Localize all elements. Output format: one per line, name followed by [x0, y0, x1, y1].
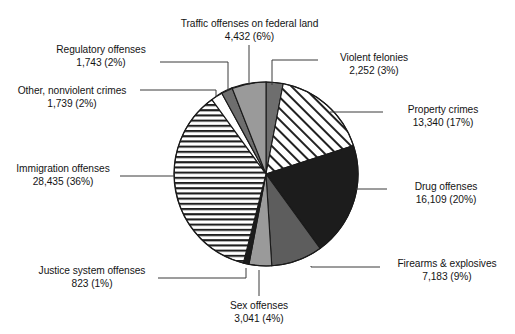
label-regulatory-title: Regulatory offenses [45, 44, 157, 57]
label-immigration-value: 28,435 (36%) [8, 176, 118, 189]
label-regulatory-offenses: Regulatory offenses 1,743 (2%) [45, 44, 157, 69]
label-drug-title: Drug offenses [391, 181, 501, 194]
label-firearms-value: 7,183 (9%) [384, 271, 510, 284]
label-violent-felonies: Violent felonies 2,252 (3%) [322, 52, 426, 77]
label-other-value: 1,739 (2%) [8, 98, 136, 111]
label-firearms-title: Firearms & explosives [384, 258, 510, 271]
label-traffic-value: 4,432 (6%) [152, 31, 347, 44]
leader-line-justice [158, 268, 246, 278]
label-justice-title: Justice system offenses [28, 265, 156, 278]
pie-chart-figure: Traffic offenses on federal land 4,432 (… [0, 0, 515, 334]
label-violent-value: 2,252 (3%) [322, 65, 426, 78]
pie-slices [174, 82, 358, 266]
label-property-title: Property crimes [387, 104, 499, 117]
label-traffic-title: Traffic offenses on federal land [152, 18, 347, 31]
leader-line-violent [272, 60, 318, 85]
label-property-crimes: Property crimes 13,340 (17%) [387, 104, 499, 129]
label-sex-value: 3,041 (4%) [207, 313, 311, 326]
label-violent-title: Violent felonies [322, 52, 426, 65]
leader-line-regulatory [160, 62, 228, 91]
label-immigration-title: Immigration offenses [8, 163, 118, 176]
label-sex-offenses: Sex offenses 3,041 (4%) [207, 300, 311, 325]
label-justice-value: 823 (1%) [28, 278, 156, 291]
label-immigration-offenses: Immigration offenses 28,435 (36%) [8, 163, 118, 188]
label-drug-offenses: Drug offenses 16,109 (20%) [391, 181, 501, 206]
label-drug-value: 16,109 (20%) [391, 194, 501, 207]
label-firearms-explosives: Firearms & explosives 7,183 (9%) [384, 258, 510, 283]
label-traffic-offenses: Traffic offenses on federal land 4,432 (… [152, 18, 347, 43]
leader-line-firearms [311, 266, 380, 267]
leader-line-other [140, 90, 216, 97]
label-property-value: 13,340 (17%) [387, 117, 499, 130]
label-other-title: Other, nonviolent crimes [8, 85, 136, 98]
label-justice-system-offenses: Justice system offenses 823 (1%) [28, 265, 156, 290]
label-sex-title: Sex offenses [207, 300, 311, 313]
label-regulatory-value: 1,743 (2%) [45, 57, 157, 70]
label-other-nonviolent-crimes: Other, nonviolent crimes 1,739 (2%) [8, 85, 136, 110]
